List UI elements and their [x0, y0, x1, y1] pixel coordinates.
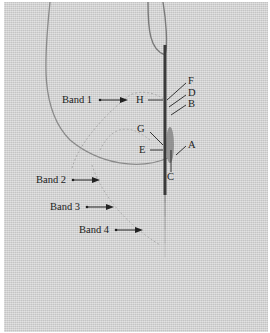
- point-h-label: H: [136, 95, 144, 106]
- band-1-arrow: [99, 97, 128, 103]
- fabric-bulge: [166, 127, 174, 163]
- point-c-label: C: [167, 172, 174, 183]
- needle-thread-illustration: [0, 0, 270, 333]
- band-1-label: Band 1: [62, 95, 92, 106]
- point-a-label: A: [188, 140, 196, 151]
- point-e-label: E: [139, 145, 145, 156]
- point-b-label: B: [188, 99, 195, 110]
- band-3-arrow: [86, 204, 114, 210]
- point-f-label: F: [188, 76, 194, 87]
- band-4-label: Band 4: [79, 225, 109, 236]
- band-2-label: Band 2: [36, 175, 66, 186]
- band-3-label: Band 3: [50, 202, 80, 213]
- point-g-label: G: [137, 124, 145, 135]
- band-4-arrow: [115, 227, 143, 233]
- point-d-label: D: [188, 88, 196, 99]
- band-2-arrow: [72, 177, 100, 183]
